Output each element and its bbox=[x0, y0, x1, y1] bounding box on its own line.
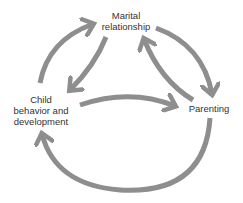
node-marital-line2: relationship bbox=[98, 21, 154, 32]
node-child-line1: Child bbox=[2, 94, 80, 105]
node-parenting-line1: Parenting bbox=[182, 103, 236, 114]
node-parenting: Parenting bbox=[182, 103, 236, 114]
node-child-behavior: Child behavior and development bbox=[2, 94, 80, 127]
node-marital-line1: Marital bbox=[98, 10, 154, 21]
arrow-child-to-parenting bbox=[80, 97, 175, 106]
node-marital-relationship: Marital relationship bbox=[98, 10, 154, 32]
node-child-line2: behavior and bbox=[2, 105, 80, 116]
arrow-marital-to-child bbox=[70, 37, 106, 90]
node-child-line3: development bbox=[2, 116, 80, 127]
arrow-parenting-to-child bbox=[42, 118, 210, 190]
arrow-marital-to-parenting bbox=[156, 28, 212, 94]
